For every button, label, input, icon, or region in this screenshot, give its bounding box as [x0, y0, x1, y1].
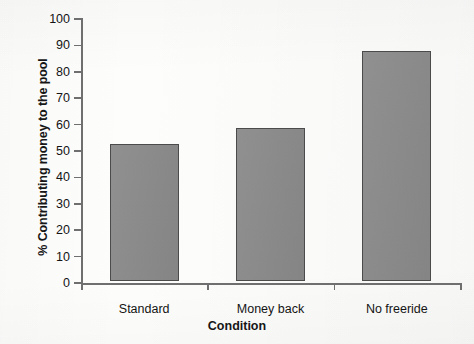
category-label-standard: Standard — [119, 302, 170, 316]
y-axis-tick: 80 — [74, 71, 81, 73]
y-axis-tick: 30 — [74, 203, 81, 205]
x-axis-line — [81, 283, 460, 285]
x-axis-tick — [334, 283, 336, 290]
y-axis-tick-label: 80 — [56, 65, 70, 79]
bar-money-back — [236, 128, 305, 281]
y-axis-title: % Contributing money to the pool — [36, 22, 50, 292]
y-axis-tick-label: 60 — [56, 118, 70, 132]
y-axis-tick: 70 — [74, 97, 81, 99]
y-axis-tick: 90 — [74, 45, 81, 47]
y-axis-tick-label: 70 — [56, 91, 70, 105]
y-axis-tick: 60 — [74, 124, 81, 126]
x-axis-tick — [460, 283, 462, 290]
y-axis-tick-label: 20 — [56, 223, 70, 237]
y-axis-tick: 10 — [74, 256, 81, 258]
y-axis-tick-label: 30 — [56, 197, 70, 211]
y-axis-tick-label: 50 — [56, 144, 70, 158]
y-axis-tick-label: 90 — [56, 38, 70, 52]
y-axis-line — [81, 18, 83, 284]
y-axis-tick: 40 — [74, 177, 81, 179]
y-axis-tick: 50 — [74, 150, 81, 152]
x-axis-tick — [81, 283, 83, 290]
y-axis-tick-label: 40 — [56, 170, 70, 184]
bar-chart-figure: % Contributing money to the pool 0102030… — [0, 0, 474, 344]
y-axis-tick: 20 — [74, 229, 81, 231]
y-axis-tick-label: 10 — [56, 250, 70, 264]
y-axis-tick-label: 0 — [63, 276, 70, 290]
bar-no-freeride — [362, 51, 431, 281]
category-label-no-freeride: No freeride — [366, 302, 428, 316]
plot-area: 0102030405060708090100 StandardMoney bac… — [81, 19, 460, 283]
y-axis-tick: 100 — [74, 18, 81, 20]
x-axis-title: Condition — [0, 319, 474, 333]
category-label-money-back: Money back — [237, 302, 304, 316]
y-axis-tick: 0 — [74, 282, 81, 284]
y-axis-tick-label: 100 — [49, 12, 70, 26]
bar-standard — [110, 144, 179, 281]
x-axis-tick — [207, 283, 209, 290]
